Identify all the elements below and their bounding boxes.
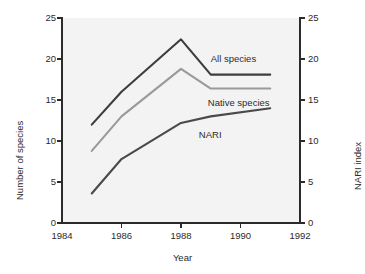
chart-figure: 0510152025051015202519841986198819901992… <box>0 0 365 274</box>
y-axis-left-tick-label: 15 <box>28 95 56 105</box>
series-label-nari: NARI <box>199 129 222 140</box>
y-axis-left-tick-label: 5 <box>28 177 56 187</box>
y-axis-right-tick-label: 15 <box>308 95 332 105</box>
y-axis-right-tick-label: 10 <box>308 136 332 146</box>
y-axis-left-tick-label: 20 <box>28 54 56 64</box>
x-axis-tick-label: 1986 <box>98 231 146 241</box>
y-axis-left-tick-label: 0 <box>28 218 56 228</box>
x-axis-tick-label: 1988 <box>157 231 205 241</box>
y-axis-right-tick-label: 25 <box>308 13 332 23</box>
series-label-all-species: All species <box>211 53 256 64</box>
y-axis-right-tick-label: 5 <box>308 177 332 187</box>
y-axis-left-title: Number of species <box>14 121 25 200</box>
x-axis-tick-label: 1984 <box>38 231 86 241</box>
y-axis-right-title: NARI index <box>352 142 363 190</box>
y-axis-right-tick-label: 20 <box>308 54 332 64</box>
y-axis-left-tick-label: 25 <box>28 13 56 23</box>
axes-lines <box>62 17 300 223</box>
series-line-native-species <box>92 69 271 151</box>
y-axis-left-tick-label: 10 <box>28 136 56 146</box>
x-axis-title: Year <box>0 252 365 263</box>
y-axis-right-tick-label: 0 <box>308 218 332 228</box>
series-label-native-species: Native species <box>208 97 270 108</box>
x-axis-tick-label: 1992 <box>276 231 324 241</box>
x-axis-tick-label: 1990 <box>217 231 265 241</box>
